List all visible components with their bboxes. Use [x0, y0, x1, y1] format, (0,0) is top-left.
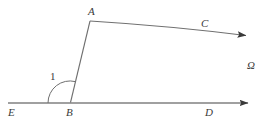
- label-point-d: D: [205, 107, 213, 118]
- geometry-canvas: [0, 0, 277, 127]
- geometric-figure: A B C D E 1 Ω: [0, 0, 277, 127]
- label-angle-1: 1: [50, 71, 56, 82]
- segment-ba-line: [71, 21, 91, 103]
- label-point-e: E: [8, 107, 15, 118]
- label-point-c: C: [201, 18, 208, 29]
- curve-ac-path: [90, 21, 246, 36]
- label-point-b: B: [66, 107, 73, 118]
- label-point-a: A: [88, 6, 95, 17]
- label-region-omega: Ω: [247, 60, 255, 71]
